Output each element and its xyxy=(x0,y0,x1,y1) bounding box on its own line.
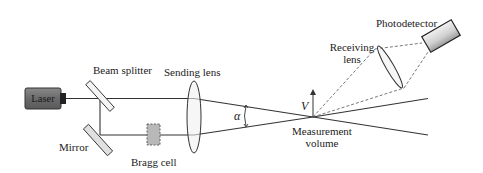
laser: Laser xyxy=(25,88,66,109)
measurement-volume-label-2: volume xyxy=(306,137,339,149)
photodetector-label: Photodetector xyxy=(376,17,437,29)
angle-arc xyxy=(245,106,247,126)
mirror-label: Mirror xyxy=(59,141,89,153)
sending-lens xyxy=(187,81,201,153)
beam-splitter-label: Beam splitter xyxy=(93,64,152,76)
measurement-volume-label-1: Measurement xyxy=(292,125,352,137)
focus-ray-2 xyxy=(404,52,428,88)
receiving-lens-label-2: lens xyxy=(343,53,361,65)
laser-label: Laser xyxy=(31,93,55,104)
receiving-lens xyxy=(375,44,406,90)
velocity-label: V xyxy=(301,99,310,113)
bragg-cell xyxy=(147,124,160,145)
ldv-diagram: Laser Beam splitter Mirror Bragg cell Se… xyxy=(0,0,483,173)
scatter-ray-2 xyxy=(313,88,404,117)
diverging-beam-upper xyxy=(313,99,428,118)
alpha-label: α xyxy=(234,109,241,123)
receiving-lens-label-1: Receiving xyxy=(330,41,375,53)
converging-beam-upper xyxy=(194,99,313,118)
sending-lens-label: Sending lens xyxy=(164,66,221,78)
bragg-cell-label: Bragg cell xyxy=(131,156,177,168)
velocity-arrowhead-icon xyxy=(310,89,316,95)
